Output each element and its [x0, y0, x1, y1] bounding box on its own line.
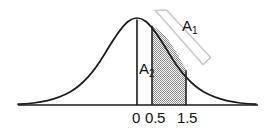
x-tick-label-0point5: 0.5 — [145, 110, 165, 125]
area-1-label-base: A — [182, 17, 192, 34]
area-2-label-sub: 2 — [149, 68, 155, 79]
area-1-label-sub: 1 — [192, 25, 198, 36]
area-1-label: A1 — [182, 18, 198, 33]
x-tick-label-1point5: 1.5 — [177, 110, 197, 125]
area-2-label-base: A — [139, 60, 149, 77]
area-2-label: A2 — [139, 61, 155, 76]
normal-curve-figure: A1 A2 0 0.5 1.5 — [0, 0, 274, 134]
x-tick-label-0: 0 — [132, 110, 140, 125]
